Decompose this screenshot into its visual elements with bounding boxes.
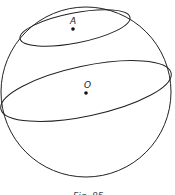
point-o-dot: [84, 91, 88, 95]
point-a-dot: [71, 27, 75, 31]
point-o-label: O: [84, 80, 91, 90]
point-a-label: A: [69, 16, 76, 26]
figure-caption: Fig. 85: [73, 191, 104, 195]
great-circle-section: [0, 48, 175, 133]
small-circle-section: [17, 3, 133, 54]
sphere-diagram: A O Fig. 85: [0, 0, 175, 195]
